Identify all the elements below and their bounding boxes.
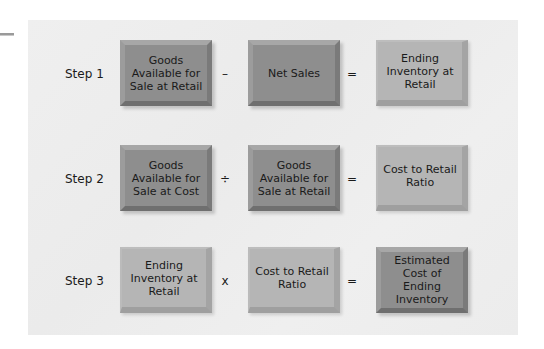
box-text: Net Sales: [268, 67, 320, 80]
step-2-label: Step 2: [65, 172, 104, 186]
cost-to-retail-ratio-box: Cost to Retail Ratio: [248, 247, 340, 313]
step-1-row: Step 1 Goods Available for Sale at Retai…: [28, 40, 518, 108]
box-text: Ending Inventory at Retail: [126, 259, 202, 298]
retail-method-diagram: Step 1 Goods Available for Sale at Retai…: [28, 20, 518, 335]
box-text: Goods Available for Sale at Cost: [129, 159, 203, 198]
multiply-operator: x: [218, 274, 232, 288]
step-1-label: Step 1: [65, 67, 104, 81]
goods-available-retail-box: Goods Available for Sale at Retail: [248, 145, 340, 211]
goods-available-cost-box: Goods Available for Sale at Cost: [120, 145, 212, 211]
box-text: Ending Inventory at Retail: [382, 52, 458, 91]
equals-operator: =: [345, 67, 359, 81]
box-text: Estimated Cost of Ending Inventory: [385, 254, 459, 306]
net-sales-box: Net Sales: [248, 40, 340, 106]
box-text: Cost to Retail Ratio: [382, 163, 458, 189]
estimated-cost-ending-inventory-box: Estimated Cost of Ending Inventory: [376, 247, 468, 313]
ending-inventory-retail-box: Ending Inventory at Retail: [120, 247, 212, 313]
step-2-row: Step 2 Goods Available for Sale at Cost …: [28, 145, 518, 213]
margin-rule: [0, 33, 14, 35]
divide-operator: ÷: [218, 172, 232, 186]
box-text: Goods Available for Sale at Retail: [129, 54, 203, 93]
equals-operator: =: [345, 274, 359, 288]
goods-available-retail-box: Goods Available for Sale at Retail: [120, 40, 212, 106]
step-3-row: Step 3 Ending Inventory at Retail x Cost…: [28, 247, 518, 315]
step-3-label: Step 3: [65, 274, 104, 288]
cost-to-retail-ratio-box: Cost to Retail Ratio: [376, 145, 468, 211]
equals-operator: =: [345, 172, 359, 186]
box-text: Goods Available for Sale at Retail: [257, 159, 331, 198]
ending-inventory-retail-box: Ending Inventory at Retail: [376, 40, 468, 106]
minus-operator: –: [218, 67, 232, 81]
box-text: Cost to Retail Ratio: [254, 265, 330, 291]
